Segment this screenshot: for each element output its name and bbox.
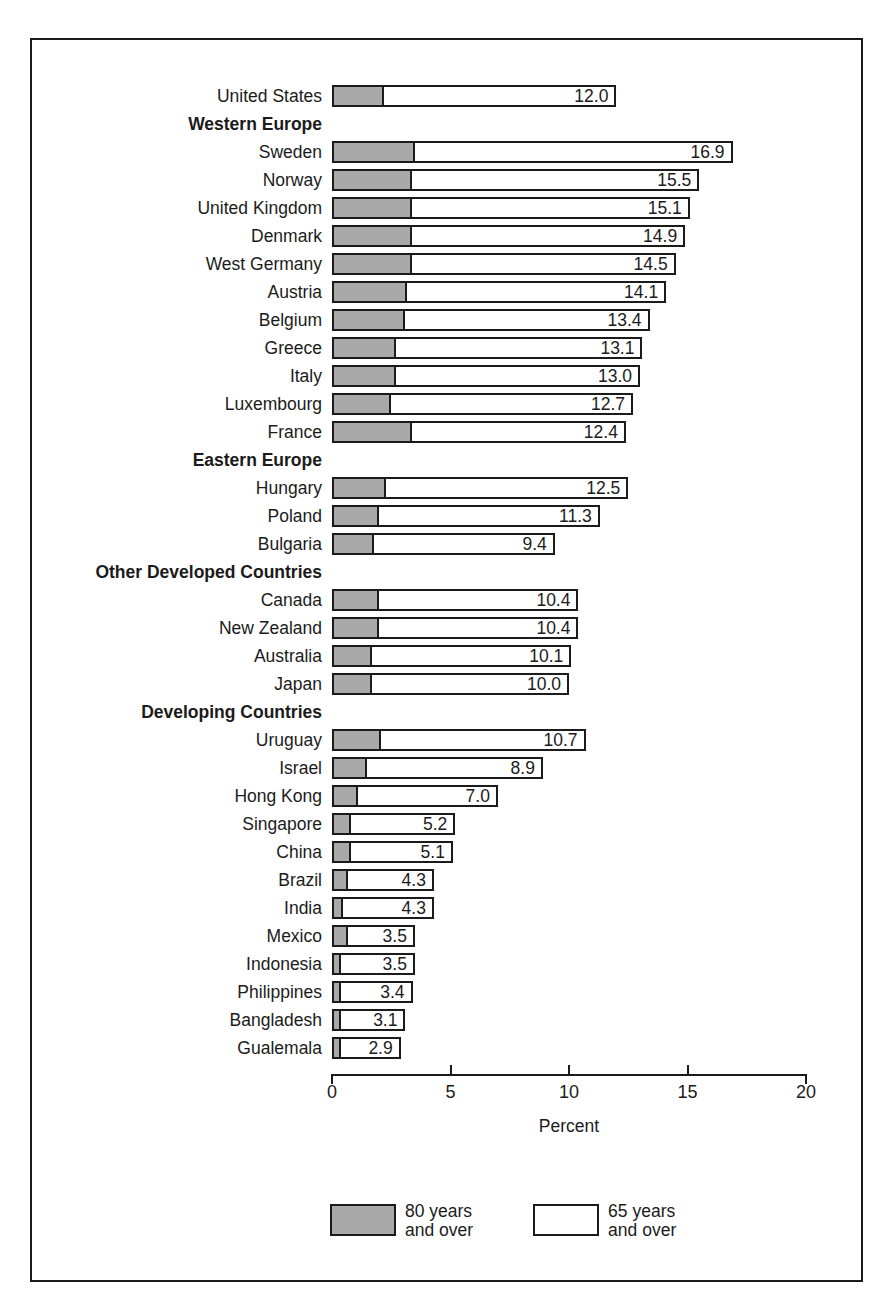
country-label: United Kingdom [197, 194, 322, 222]
chart-country-row: Philippines3.4 [32, 978, 865, 1006]
chart-country-row: Luxembourg12.7 [32, 390, 865, 418]
bar-value-label: 7.0 [466, 787, 490, 805]
bar-65-and-over: 12.7 [332, 393, 633, 415]
bar-65-and-over: 15.5 [332, 169, 699, 191]
bar-65-and-over: 14.1 [332, 281, 666, 303]
country-label: Denmark [251, 222, 322, 250]
bar-value-label: 8.9 [511, 759, 535, 777]
bar-value-label: 15.5 [657, 171, 691, 189]
x-axis-tick [450, 1065, 452, 1074]
bar-65-and-over: 12.4 [332, 421, 626, 443]
chart-country-row: Australia10.1 [32, 642, 865, 670]
bar-65-and-over: 4.3 [332, 897, 434, 919]
country-label: Hong Kong [234, 782, 322, 810]
country-label: Greece [265, 334, 322, 362]
bar-value-label: 12.7 [591, 395, 625, 413]
bar-65-and-over: 14.9 [332, 225, 685, 247]
chart-country-row: Indonesia3.5 [32, 950, 865, 978]
chart-country-row: Greece13.1 [32, 334, 865, 362]
bar-value-label: 13.0 [598, 367, 632, 385]
chart-country-row: United Kingdom15.1 [32, 194, 865, 222]
bar-segment-80-and-over [334, 395, 391, 413]
bar-segment-80-and-over [334, 871, 348, 889]
group-heading-label: Eastern Europe [193, 446, 322, 474]
country-label: New Zealand [219, 614, 322, 642]
bar-segment-80-and-over [334, 1011, 341, 1029]
chart-country-row: Hungary12.5 [32, 474, 865, 502]
chart-country-row: Austria14.1 [32, 278, 865, 306]
chart-country-row: France12.4 [32, 418, 865, 446]
x-axis-tick-label: 10 [559, 1082, 579, 1103]
chart-group-row: Eastern Europe [32, 446, 865, 474]
bar-segment-80-and-over [334, 787, 358, 805]
country-label: Australia [254, 642, 322, 670]
bar-segment-80-and-over [334, 927, 348, 945]
bar-segment-80-and-over [334, 759, 367, 777]
bar-65-and-over: 10.7 [332, 729, 586, 751]
chart-country-row: Canada10.4 [32, 586, 865, 614]
bar-value-label: 10.4 [536, 619, 570, 637]
bar-65-and-over: 9.4 [332, 533, 555, 555]
x-axis-tick [568, 1065, 570, 1074]
bar-segment-80-and-over [334, 143, 415, 161]
bar-value-label: 14.1 [624, 283, 658, 301]
bar-65-and-over: 10.0 [332, 673, 569, 695]
bar-segment-80-and-over [334, 843, 351, 861]
bar-value-label: 5.1 [421, 843, 445, 861]
x-axis-tick-label: 5 [445, 1082, 455, 1103]
bar-65-and-over: 10.4 [332, 589, 578, 611]
country-label: Israel [279, 754, 322, 782]
bar-value-label: 10.1 [529, 647, 563, 665]
chart-country-row: Singapore5.2 [32, 810, 865, 838]
chart-country-row: West Germany14.5 [32, 250, 865, 278]
x-axis: 05101520 [332, 1074, 806, 1076]
bar-value-label: 16.9 [690, 143, 724, 161]
chart-legend: 80 years and over65 years and over [330, 1202, 676, 1240]
bar-65-and-over: 14.5 [332, 253, 676, 275]
bar-65-and-over: 12.0 [332, 85, 616, 107]
bar-65-and-over: 12.5 [332, 477, 628, 499]
legend-swatch-80-icon [330, 1204, 396, 1236]
chart-country-row: Uruguay10.7 [32, 726, 865, 754]
country-label: Canada [261, 586, 322, 614]
chart-group-row: Other Developed Countries [32, 558, 865, 586]
bar-value-label: 3.5 [383, 955, 407, 973]
country-label: India [284, 894, 322, 922]
bar-value-label: 11.3 [559, 507, 592, 525]
chart-country-row: China5.1 [32, 838, 865, 866]
bar-segment-80-and-over [334, 199, 412, 217]
country-label: Brazil [278, 866, 322, 894]
bar-segment-80-and-over [334, 675, 372, 693]
country-label: Gualemala [237, 1034, 322, 1062]
chart-country-row: Japan10.0 [32, 670, 865, 698]
country-label: Norway [263, 166, 322, 194]
bar-value-label: 13.4 [608, 311, 642, 329]
group-heading-label: Other Developed Countries [95, 558, 322, 586]
country-label: Italy [290, 362, 322, 390]
bar-value-label: 12.5 [586, 479, 620, 497]
country-label: France [268, 418, 322, 446]
bar-segment-80-and-over [334, 367, 396, 385]
group-heading-label: Western Europe [188, 110, 322, 138]
bar-segment-80-and-over [334, 311, 405, 329]
legend-label: 65 years and over [608, 1202, 676, 1240]
bar-value-label: 14.5 [634, 255, 668, 273]
chart-country-row: Bulgaria9.4 [32, 530, 865, 558]
bar-value-label: 5.2 [423, 815, 447, 833]
bar-segment-80-and-over [334, 339, 396, 357]
bar-value-label: 4.3 [402, 871, 426, 889]
bar-65-and-over: 3.1 [332, 1009, 405, 1031]
figure-frame: United States12.0Western EuropeSweden16.… [30, 38, 863, 1282]
bar-segment-80-and-over [334, 647, 372, 665]
bar-segment-80-and-over [334, 283, 407, 301]
bar-65-and-over: 11.3 [332, 505, 600, 527]
chart-country-row: New Zealand10.4 [32, 614, 865, 642]
legend-label: 80 years and over [405, 1202, 473, 1240]
chart-country-row: Belgium13.4 [32, 306, 865, 334]
chart-country-row: Gualemala2.9 [32, 1034, 865, 1062]
bar-segment-80-and-over [334, 507, 379, 525]
bar-segment-80-and-over [334, 591, 379, 609]
bar-value-label: 15.1 [648, 199, 682, 217]
bar-65-and-over: 4.3 [332, 869, 434, 891]
bar-value-label: 2.9 [368, 1039, 392, 1057]
